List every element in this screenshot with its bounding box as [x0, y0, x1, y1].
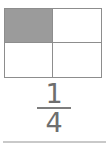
fraction-denominator: 4	[45, 110, 62, 135]
fraction-numerator: 1	[45, 81, 62, 106]
model-cell-top-left	[5, 9, 53, 43]
figure-canvas: 1 4	[0, 0, 108, 152]
model-cell-bottom-left	[5, 43, 53, 77]
fraction-label: 1 4	[0, 80, 108, 136]
model-grid	[5, 9, 101, 77]
model-cell-top-right	[53, 9, 101, 43]
model-cell-bottom-right	[53, 43, 101, 77]
bottom-divider	[3, 141, 106, 143]
fraction-area-model	[4, 8, 102, 78]
